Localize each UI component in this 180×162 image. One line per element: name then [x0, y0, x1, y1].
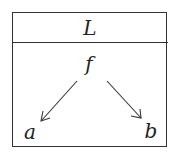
edges-layer: [0, 0, 180, 162]
arrow-f-to-b-icon: [107, 81, 141, 118]
arrow-f-to-a-icon: [41, 81, 77, 121]
